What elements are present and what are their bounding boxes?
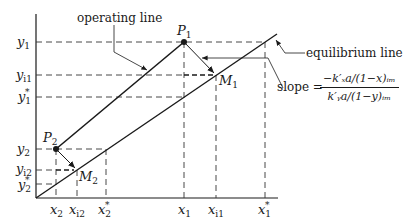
x-tick-xi2: xi2 <box>69 203 85 219</box>
label-p2: P2 <box>43 131 57 147</box>
diagram-lines <box>0 0 418 223</box>
y-tick-yi1: yi1 <box>16 68 32 84</box>
x-tick-x2: x2 <box>50 203 63 219</box>
slope-leader <box>202 58 283 88</box>
x-tick-x1: x1 <box>178 203 191 219</box>
slope-label: slope = <box>277 81 323 93</box>
label-m2: M2 <box>79 170 98 186</box>
slope-fraction: −k′ₓa/(1−x)ᵢₘ k′ᵧa/(1−y)ᵢₘ <box>320 72 399 103</box>
x-tick-xi1: xi1 <box>208 203 224 219</box>
y-tick-y1-star: y1* <box>18 90 36 106</box>
y-tick-y2: y2 <box>17 142 30 158</box>
tie-line-p2-m2 <box>56 149 75 168</box>
tie-line-p1-m1 <box>184 42 214 73</box>
x-tick-x2-star: x2* <box>98 203 116 219</box>
equilibrium-line-label: equilibrium line <box>306 47 403 59</box>
equilibrium-line <box>36 34 277 198</box>
x-tick-x1-star: x1* <box>258 203 276 219</box>
operating-line <box>56 42 184 149</box>
slope-numerator: −k′ₓa/(1−x)ᵢₘ <box>320 72 399 88</box>
operating-line-leader <box>114 25 147 70</box>
label-p1: P1 <box>177 24 191 40</box>
label-m1: M1 <box>219 74 238 90</box>
diagram-canvas: operating line equilibrium line slope = … <box>0 0 418 223</box>
equilibrium-line-leader <box>276 40 305 53</box>
slope-denominator: k′ᵧa/(1−y)ᵢₘ <box>320 88 399 103</box>
y-tick-y2-star: y2* <box>18 178 36 194</box>
y-tick-y1: y1 <box>17 35 30 51</box>
operating-line-label: operating line <box>77 12 162 24</box>
